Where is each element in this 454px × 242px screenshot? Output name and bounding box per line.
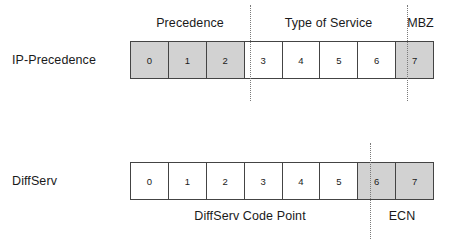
bit-cell: 0 (131, 42, 169, 78)
group-caption-diffserv-code-point: DiffServ Code Point (130, 209, 370, 223)
bit-cell: 4 (283, 163, 321, 199)
group-caption-type-of-service: Type of Service (250, 16, 407, 30)
group-caption-mbz: MBZ (407, 16, 434, 30)
row-label-ip-precedence: IP-Precedence (12, 53, 96, 67)
bit-cell: 4 (283, 42, 321, 78)
separator-dscp-ecn (370, 143, 371, 239)
separator-precedence-tos (250, 5, 251, 101)
separator-tos-mbz (407, 5, 408, 101)
group-caption-precedence: Precedence (130, 16, 250, 30)
bit-cell: 0 (131, 163, 169, 199)
bit-cell: 5 (320, 163, 358, 199)
group-caption-ecn: ECN (370, 209, 434, 223)
bit-cell: 3 (245, 163, 283, 199)
bit-cell: 7 (396, 163, 433, 199)
diagram-canvas: IP-Precedence Precedence Type of Service… (0, 0, 454, 242)
bit-cell: 2 (207, 163, 245, 199)
bit-cell: 6 (358, 42, 396, 78)
bit-table-diffserv: 0 1 2 3 4 5 6 7 (130, 162, 434, 200)
bit-table-ip-precedence: 0 1 2 3 4 5 6 7 (130, 41, 434, 79)
bit-cell: 6 (358, 163, 396, 199)
row-label-diffserv: DiffServ (12, 174, 57, 188)
bit-cell: 1 (169, 42, 207, 78)
bit-cell: 1 (169, 163, 207, 199)
bit-cell: 5 (320, 42, 358, 78)
bit-cell: 7 (396, 42, 433, 78)
bit-cell: 2 (207, 42, 245, 78)
